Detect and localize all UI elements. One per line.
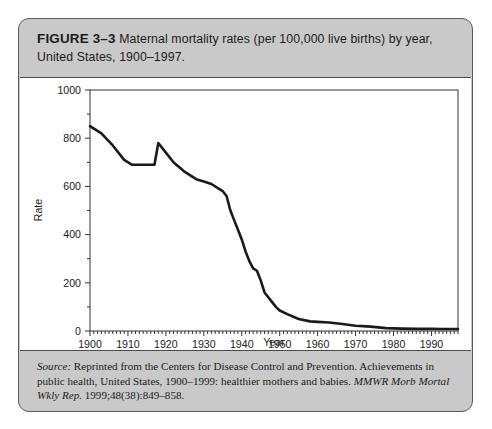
x-axis-title: Year bbox=[263, 336, 285, 348]
line-chart: 02004006008001000 1900191019201930194019… bbox=[20, 78, 471, 350]
x-tick-label: 1920 bbox=[154, 338, 178, 350]
figure-title-line-2: United States, 1900–1997. bbox=[37, 50, 185, 64]
x-tick-label: 1900 bbox=[78, 338, 102, 350]
figure-container: FIGURE 3–3 Maternal mortality rates (per… bbox=[18, 18, 473, 412]
y-tick-label: 800 bbox=[63, 132, 81, 144]
figure-header: FIGURE 3–3 Maternal mortality rates (per… bbox=[19, 19, 472, 77]
x-tick-label: 1980 bbox=[382, 338, 406, 350]
y-tick-label: 1000 bbox=[57, 84, 81, 96]
x-axis-tick-labels: 1900191019201930194019501960197019801990 bbox=[78, 338, 443, 350]
figure-source-caption: Source: Reprinted from the Centers for D… bbox=[37, 359, 457, 403]
x-tick-label: 1960 bbox=[306, 338, 330, 350]
y-axis-tick-labels: 02004006008001000 bbox=[57, 84, 81, 337]
x-tick-label: 1930 bbox=[192, 338, 216, 350]
y-tick-label: 400 bbox=[63, 228, 81, 240]
x-tick-label: 1910 bbox=[116, 338, 140, 350]
x-tick-label: 1990 bbox=[420, 338, 444, 350]
y-tick-label: 200 bbox=[63, 277, 81, 289]
source-label: Source: bbox=[37, 360, 71, 372]
y-tick-label: 600 bbox=[63, 180, 81, 192]
y-axis-title: Rate bbox=[32, 199, 44, 221]
x-tick-label: 1970 bbox=[344, 338, 368, 350]
chart-plot-area: 02004006008001000 1900191019201930194019… bbox=[20, 77, 471, 351]
data-series-line bbox=[90, 126, 458, 329]
figure-title: FIGURE 3–3 Maternal mortality rates (per… bbox=[37, 30, 456, 66]
plot-frame bbox=[90, 90, 458, 331]
x-tick-label: 1940 bbox=[230, 338, 254, 350]
figure-number-label: FIGURE 3–3 bbox=[37, 31, 116, 46]
source-text-part-2: 1999;48(38):849–858. bbox=[82, 389, 184, 401]
figure-title-line-1: Maternal mortality rates (per 100,000 li… bbox=[119, 32, 432, 46]
y-tick-label: 0 bbox=[75, 325, 81, 337]
